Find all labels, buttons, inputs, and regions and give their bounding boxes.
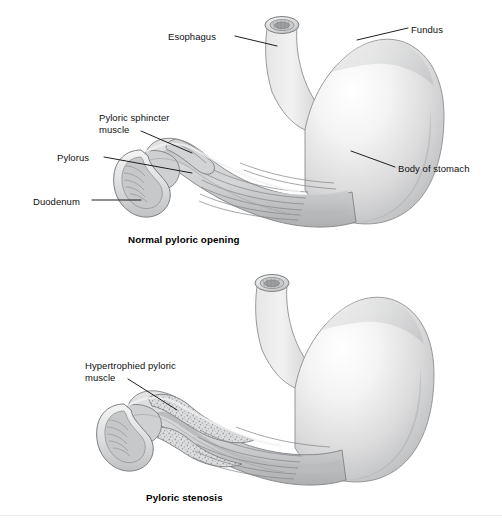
caption-pyloric-stenosis: Pyloric stenosis bbox=[146, 492, 223, 503]
label-body-of-stomach: Body of stomach bbox=[398, 163, 470, 175]
label-hypertrophied-pyloric-muscle-line1: Hypertrophied pyloric bbox=[85, 360, 176, 371]
caption-normal-pyloric-opening: Normal pyloric opening bbox=[128, 234, 240, 245]
anatomy-figure-root: Esophagus Fundus Pyloric sphinctermuscle… bbox=[0, 0, 502, 528]
label-pyloric-sphincter-muscle-line2: muscle bbox=[99, 124, 129, 135]
label-pyloric-sphincter-muscle-line1: Pyloric sphincter bbox=[99, 112, 170, 123]
stomach-anatomy-illustration bbox=[0, 0, 502, 528]
label-fundus: Fundus bbox=[411, 24, 443, 36]
label-pylorus: Pylorus bbox=[57, 152, 89, 164]
esophagus-cut-stump bbox=[265, 17, 299, 34]
label-hypertrophied-pyloric-muscle-line2: muscle bbox=[85, 372, 115, 383]
esophagus-cut-stump-stenosis bbox=[255, 275, 289, 292]
leader-fundus bbox=[357, 28, 408, 40]
label-hypertrophied-pyloric-muscle: Hypertrophied pyloricmuscle bbox=[85, 360, 176, 383]
label-pyloric-sphincter-muscle: Pyloric sphinctermuscle bbox=[99, 112, 170, 135]
label-esophagus: Esophagus bbox=[168, 31, 216, 43]
label-duodenum: Duodenum bbox=[33, 196, 80, 208]
bottom-divider bbox=[0, 515, 502, 516]
